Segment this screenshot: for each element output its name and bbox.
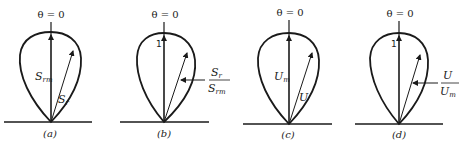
caption-b: (b) [157, 128, 171, 139]
theta-zero-label: θ = 0 [151, 9, 178, 20]
caption-c: (c) [281, 129, 295, 140]
unit-mark: 1 [391, 39, 397, 49]
caption-a: (a) [43, 128, 57, 139]
unit-mark: 1 [156, 39, 162, 49]
radiation-pattern-figure: θ = 0 Srm Sr (a) θ = 0 1 Sr Srm (b) θ = … [0, 0, 459, 146]
caption-d: (d) [392, 129, 406, 140]
radial-vector-label: Sr [58, 93, 70, 107]
radial-vector-label: U [299, 91, 309, 104]
radial-vector-arrow [164, 53, 187, 122]
radial-vector-arrow [51, 51, 73, 122]
ratio-denominator: Srm [208, 82, 226, 96]
ratio-numerator: U [443, 69, 453, 82]
theta-zero-label: θ = 0 [37, 9, 64, 20]
ratio-numerator: Sr [211, 66, 223, 80]
panel-c: θ = 0 Um U (c) [243, 7, 332, 140]
vertical-vector-label: Um [274, 70, 290, 84]
panel-a: θ = 0 Srm Sr (a) [4, 9, 92, 139]
theta-zero-label: θ = 0 [386, 8, 413, 19]
radial-vector-arrow [399, 55, 420, 124]
panel-d: θ = 0 1 U Um (d) [355, 8, 459, 140]
pattern-lobe [137, 33, 195, 122]
theta-zero-label: θ = 0 [276, 7, 303, 18]
ratio-denominator: Um [440, 85, 456, 99]
panel-b: θ = 0 1 Sr Srm (b) [120, 9, 230, 139]
vertical-vector-label: Srm [35, 70, 53, 84]
radial-vector-arrow [289, 53, 312, 124]
